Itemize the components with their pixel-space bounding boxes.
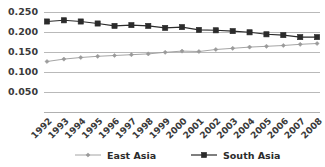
legend-item-east-asia[interactable]: East Asia [75, 150, 156, 161]
legend-item-south-asia[interactable]: South Asia [191, 150, 280, 161]
data-point-marker [45, 59, 49, 63]
data-point-marker [281, 43, 285, 47]
data-point-marker [196, 27, 201, 32]
data-point-marker [146, 23, 151, 28]
data-series-group [44, 18, 319, 64]
data-point-marker [315, 41, 319, 45]
chart-container: 0.0500.1000.1500.2000.250 19921993199419… [0, 0, 325, 167]
data-point-marker [129, 23, 134, 28]
chart-legend: East AsiaSouth Asia [75, 150, 280, 161]
data-point-marker [247, 30, 252, 35]
line-chart: 0.0500.1000.1500.2000.250 19921993199419… [0, 0, 325, 167]
data-point-marker [96, 54, 100, 58]
data-point-marker [79, 55, 83, 59]
y-tick-label: 0.050 [8, 86, 38, 97]
data-point-marker [231, 46, 235, 50]
y-axis-tick-labels: 0.0500.1000.1500.2000.250 [8, 6, 38, 97]
data-point-marker [112, 53, 116, 57]
legend-label: South Asia [223, 150, 280, 161]
legend-marker-swatch [201, 152, 206, 157]
legend-label: East Asia [107, 150, 156, 161]
data-point-marker [298, 35, 303, 40]
y-tick-label: 0.200 [8, 26, 38, 37]
data-point-marker [129, 53, 133, 57]
data-point-marker [298, 42, 302, 46]
data-point-marker [214, 47, 218, 51]
data-point-marker [44, 19, 49, 24]
y-tick-label: 0.150 [8, 46, 38, 57]
legend-marker-swatch [86, 153, 90, 157]
y-tick-label: 0.250 [8, 6, 38, 17]
data-point-marker [230, 29, 235, 34]
data-point-marker [213, 28, 218, 33]
data-point-marker [247, 45, 251, 49]
x-axis-tick-labels: 1992199319941995199619971998199920002001… [29, 116, 324, 141]
data-point-marker [163, 25, 168, 30]
data-point-marker [163, 50, 167, 54]
data-point-marker [112, 23, 117, 28]
data-point-marker [62, 57, 66, 61]
data-point-marker [61, 18, 66, 23]
data-point-marker [281, 33, 286, 38]
data-point-marker [95, 21, 100, 26]
y-tick-label: 0.100 [8, 66, 38, 77]
data-point-marker [179, 25, 184, 30]
data-point-marker [264, 44, 268, 48]
series-south-asia [44, 18, 319, 40]
data-point-marker [78, 19, 83, 24]
data-point-marker [314, 35, 319, 40]
data-point-marker [264, 32, 269, 37]
